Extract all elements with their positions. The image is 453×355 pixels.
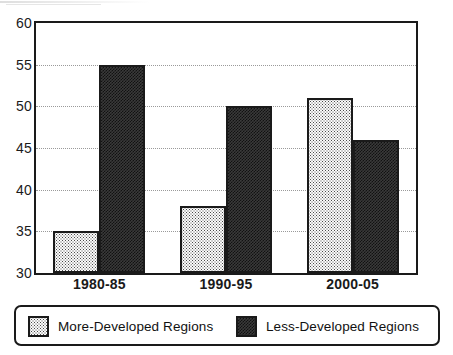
bar [307, 98, 353, 273]
legend-item-label: Less-Developed Regions [266, 319, 419, 334]
x-axis-tick-label: 1980-85 [39, 277, 159, 292]
y-axis-tick-label: 50 [2, 99, 32, 113]
legend-item-label: More-Developed Regions [58, 319, 213, 334]
y-axis-tick-label: 60 [2, 16, 32, 30]
y-axis-tick-label: 40 [2, 183, 32, 197]
y-axis-tick-label: 45 [2, 141, 32, 155]
legend-item-more-developed: More-Developed Regions [28, 315, 213, 337]
x-axis-tick-label: 2000-05 [293, 277, 413, 292]
x-axis-tick-label: 1990-95 [166, 277, 286, 292]
plot-area [34, 21, 418, 275]
scan-artifact [0, 1, 150, 3]
y-axis-tick-label: 35 [2, 224, 32, 238]
y-axis-tick-label: 55 [2, 58, 32, 72]
bar-chart-figure: 60 55 50 45 40 35 30 1980-85 1990-95 200… [0, 0, 453, 355]
plot-inner [36, 23, 416, 273]
gridline [36, 65, 416, 66]
bar [99, 65, 145, 273]
y-axis-tick-label: 30 [2, 266, 32, 280]
bar [226, 106, 272, 273]
bar [353, 140, 399, 273]
legend-item-less-developed: Less-Developed Regions [236, 315, 419, 337]
bar [53, 231, 99, 273]
legend-swatch-icon [28, 316, 49, 337]
bar [180, 206, 226, 273]
chart-legend: More-Developed Regions Less-Developed Re… [14, 305, 440, 346]
scan-artifact-secondary [6, 4, 101, 5]
legend-swatch-icon [236, 316, 257, 337]
